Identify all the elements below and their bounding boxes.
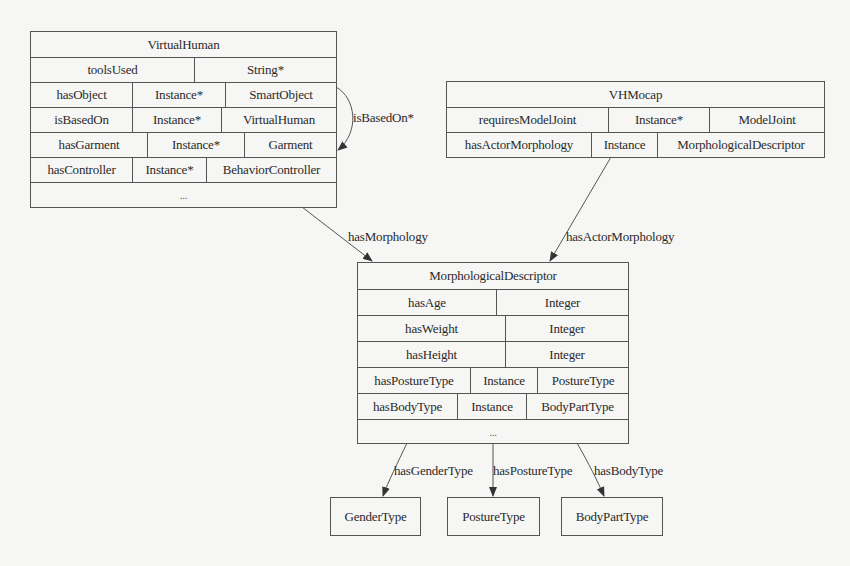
record-title-row: VirtualHuman (31, 32, 336, 57)
property-name: toolsUsed (31, 58, 194, 82)
record-title-row: MorphologicalDescriptor (358, 263, 628, 289)
property-range: BodyPartType (526, 394, 628, 419)
property-range: MorphologicalDescriptor (657, 133, 824, 157)
record-row: isBasedOn Instance* VirtualHuman (31, 107, 336, 132)
property-cardinality: Instance* (132, 83, 225, 107)
edge-label-has-gender-type: hasGenderType (394, 463, 473, 479)
property-cardinality: Instance (470, 368, 537, 393)
property-name: hasHeight (358, 342, 505, 367)
edge-label-has-posture-type: hasPostureType (493, 463, 572, 479)
property-name: hasBodyType (358, 394, 457, 419)
property-cardinality: Instance (591, 133, 657, 157)
property-name: hasWeight (358, 316, 505, 341)
property-cardinality: Instance (457, 394, 526, 419)
edge-is-based-on (336, 87, 353, 150)
vh-mocap-node[interactable]: VHMocap requiresModelJoint Instance* Mod… (446, 81, 825, 158)
property-cardinality: Instance* (147, 133, 244, 157)
record-row: requiresModelJoint Instance* ModelJoint (447, 107, 824, 132)
edge-label-has-morphology: hasMorphology (348, 229, 428, 245)
record-row: hasActorMorphology Instance Morphologica… (447, 132, 824, 157)
property-name: hasAge (358, 290, 496, 315)
posture-type-node[interactable]: PostureType (447, 497, 540, 536)
property-range: SmartObject (225, 83, 336, 107)
property-range: BehaviorController (206, 158, 336, 182)
property-range: Garment (244, 133, 336, 157)
property-cardinality: Instance* (608, 108, 709, 132)
record-row: hasWeight Integer (358, 315, 628, 341)
ellipsis: ... (358, 420, 628, 443)
property-type: Integer (505, 342, 628, 367)
property-range: VirtualHuman (221, 108, 336, 132)
record-title-row: VHMocap (447, 82, 824, 107)
edge-label-has-actor-morphology: hasActorMorphology (566, 229, 674, 245)
virtual-human-node[interactable]: VirtualHuman toolsUsed String* hasObject… (30, 31, 337, 208)
property-range: PostureType (537, 368, 628, 393)
record-row: hasGarment Instance* Garment (31, 132, 336, 157)
record-row: hasController Instance* BehaviorControll… (31, 157, 336, 182)
record-title: VirtualHuman (31, 32, 336, 57)
node-label: GenderType (344, 509, 406, 525)
property-type: Integer (496, 290, 628, 315)
record-row: hasBodyType Instance BodyPartType (358, 393, 628, 419)
property-type: Integer (505, 316, 628, 341)
property-name: hasGarment (31, 133, 147, 157)
record-title: MorphologicalDescriptor (358, 263, 628, 289)
record-row: hasAge Integer (358, 289, 628, 315)
property-name: hasPostureType (358, 368, 470, 393)
body-part-type-node[interactable]: BodyPartType (561, 497, 663, 536)
ellipsis: ... (31, 183, 336, 207)
edge-label-is-based-on: isBasedOn* (353, 110, 414, 126)
node-label: BodyPartType (576, 509, 649, 525)
record-row: ... (31, 182, 336, 207)
record-title: VHMocap (447, 82, 824, 107)
morphological-descriptor-node[interactable]: MorphologicalDescriptor hasAge Integer h… (357, 262, 629, 444)
property-name: hasController (31, 158, 132, 182)
record-row: hasPostureType Instance PostureType (358, 367, 628, 393)
record-row: toolsUsed String* (31, 57, 336, 82)
property-cardinality: Instance* (132, 158, 206, 182)
node-label: PostureType (462, 509, 525, 525)
record-row: hasObject Instance* SmartObject (31, 82, 336, 107)
edge-has-actor-morphology (550, 157, 611, 261)
property-name: requiresModelJoint (447, 108, 608, 132)
property-type: String* (194, 58, 336, 82)
property-range: ModelJoint (709, 108, 824, 132)
record-row: ... (358, 419, 628, 443)
property-name: isBasedOn (31, 108, 132, 132)
property-cardinality: Instance* (132, 108, 221, 132)
gender-type-node[interactable]: GenderType (330, 497, 421, 536)
property-name: hasActorMorphology (447, 133, 591, 157)
property-name: hasObject (31, 83, 132, 107)
edge-label-has-body-type: hasBodyType (594, 463, 663, 479)
record-row: hasHeight Integer (358, 341, 628, 367)
